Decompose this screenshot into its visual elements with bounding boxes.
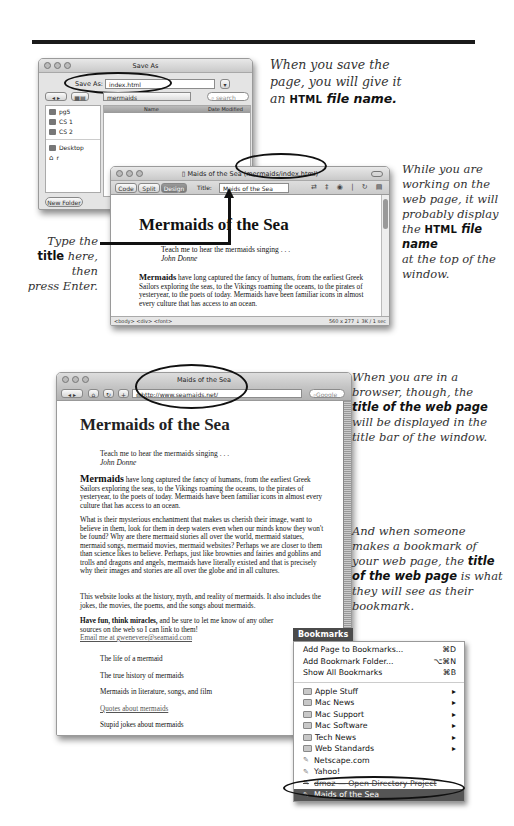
bookmark-icon: ✎ xyxy=(303,768,311,776)
folder-popup-label: mermaids xyxy=(107,94,137,101)
add-bookmark-button[interactable]: + xyxy=(118,389,129,398)
bookmarks-menu: Bookmarks Add Page to Bookmarks...⌘D Add… xyxy=(293,622,465,802)
folder-icon xyxy=(303,734,312,741)
bookmark-icon: ✎ xyxy=(303,756,311,764)
menu-item-add-page[interactable]: Add Page to Bookmarks...⌘D xyxy=(294,644,464,656)
caption-emph: HTML xyxy=(425,224,458,235)
quote-text: Teach me to hear the mermaids singing . … xyxy=(100,449,229,458)
dw-scrollbar[interactable] xyxy=(381,195,389,316)
minimize-button[interactable] xyxy=(54,62,61,69)
view-mode-button[interactable]: ▦▤ xyxy=(71,92,89,101)
tag-selector[interactable]: <body> <div> <font> xyxy=(114,317,172,325)
column-date-modified[interactable]: Date Modified xyxy=(208,106,243,112)
caption-emph: file name. xyxy=(322,91,397,106)
zoom-button[interactable] xyxy=(82,376,89,383)
sidebar-item[interactable]: Desktop xyxy=(46,143,100,152)
toolbar-toggle[interactable] xyxy=(371,171,383,177)
search-field[interactable]: ⌕ search xyxy=(207,92,249,101)
sidebar-item[interactable]: CS 2 xyxy=(46,127,100,136)
close-button[interactable] xyxy=(44,62,51,69)
caption-emph: title xyxy=(468,554,495,568)
new-folder-button[interactable]: New Folder xyxy=(45,197,83,207)
minimize-button[interactable] xyxy=(126,170,133,177)
dw-design-view[interactable]: Mermaids of the Sea Teach me to hear the… xyxy=(111,195,381,316)
caption-line: at the top of the xyxy=(402,252,514,267)
folder-popup[interactable]: mermaids xyxy=(103,92,191,101)
submenu-arrow-icon: ▸ xyxy=(452,687,456,696)
split-view-button[interactable]: Split xyxy=(138,183,160,193)
expand-dialog-button[interactable]: ▾ xyxy=(220,79,230,89)
menu-folder[interactable]: Mac News▸ xyxy=(294,697,464,709)
column-name[interactable]: Name xyxy=(144,106,159,112)
back-forward-button[interactable]: ◂ ▸ xyxy=(61,389,83,398)
sidebar-item[interactable]: CS 1 xyxy=(46,117,100,126)
document-icon: ▯ xyxy=(182,170,186,178)
dw-status-bar: <body> <div> <font> 560 x 277 ↓ 3K / 1 s… xyxy=(111,316,389,325)
zoom-button[interactable] xyxy=(64,62,71,69)
window-controls xyxy=(62,376,89,383)
caption-line: page, you will give it xyxy=(270,73,420,90)
reload-button[interactable]: ↻ xyxy=(103,389,114,398)
menu-folder[interactable]: Mac Software▸ xyxy=(294,720,464,732)
sidebar-label: r xyxy=(56,154,58,161)
menu-folder[interactable]: Web Standards▸ xyxy=(294,743,464,755)
sidebar-label: CS 1 xyxy=(59,118,73,125)
menu-bookmark[interactable]: ✎Netscape.com xyxy=(294,755,464,767)
caption-line: probably display xyxy=(402,207,514,222)
menu-folder[interactable]: Apple Stuff▸ xyxy=(294,686,464,698)
disk-icon xyxy=(49,129,56,135)
menu-item-add-folder[interactable]: Add Bookmark Folder...⌥⌘N xyxy=(294,656,464,668)
submenu-arrow-icon: ▸ xyxy=(452,710,456,719)
home-icon: ⌂ xyxy=(49,154,53,162)
minimize-button[interactable] xyxy=(72,376,79,383)
search-field[interactable]: ⌕Google xyxy=(309,389,345,398)
caption-bookmark: And when someone makes a bookmark of you… xyxy=(352,524,514,614)
caption-line: When you are in a xyxy=(352,370,514,385)
list-item: Mermaids in literature, songs, and film xyxy=(100,684,300,701)
caption-emph: of the web page xyxy=(352,569,457,583)
sidebar-item[interactable]: ⌂r xyxy=(46,153,100,162)
caption-line: bookmark. xyxy=(352,599,514,614)
scroll-thumb[interactable] xyxy=(383,199,388,229)
highlight-oval-browser-title xyxy=(135,364,248,409)
menu-label: Netscape.com xyxy=(314,756,370,765)
dw-toolbar: Code Split Design Title: Maids of the Se… xyxy=(111,181,389,195)
caption-text: your web page, the xyxy=(352,554,468,568)
quote: Teach me to hear the mermaids singing . … xyxy=(100,449,229,467)
quotes-link[interactable]: Quotes about mermaids xyxy=(100,701,300,718)
sidebar-item[interactable]: pg5 xyxy=(46,107,100,116)
bookmarks-menu-title[interactable]: Bookmarks xyxy=(293,628,353,641)
close-button[interactable] xyxy=(62,376,69,383)
close-button[interactable] xyxy=(116,170,123,177)
nav-buttons: ◂ ▸ ▦▤ xyxy=(45,92,89,101)
home-button[interactable]: ⌂ xyxy=(88,389,99,398)
list-item: The life of a mermaid xyxy=(100,651,300,668)
computer-icon xyxy=(49,109,56,115)
menu-divider xyxy=(294,682,464,683)
desktop-icon xyxy=(49,145,56,151)
dialog-title: Save As xyxy=(133,62,159,70)
menu-folder[interactable]: Tech News▸ xyxy=(294,732,464,744)
caption-line: browser, though, the xyxy=(352,385,514,400)
highlight-oval-path xyxy=(235,153,327,179)
back-forward-button[interactable]: ◂ ▸ xyxy=(45,92,67,101)
menu-shortcut: ⌥⌘N xyxy=(433,657,456,666)
menu-label: Tech News xyxy=(315,733,356,742)
sidebar-label: CS 2 xyxy=(59,128,73,135)
para-bold: Have fun, think miracles, xyxy=(80,617,158,625)
email-link[interactable]: Email me at gwenevere@seamaid.com xyxy=(80,634,290,643)
folder-icon xyxy=(303,688,312,695)
menu-label: Yahoo! xyxy=(314,767,340,776)
menu-label: Add Bookmark Folder... xyxy=(303,657,393,666)
window-size[interactable]: 560 x 277 ↓ 3K / 1 sec xyxy=(329,317,386,325)
submenu-arrow-icon: ▸ xyxy=(452,721,456,730)
design-view-button[interactable]: Design xyxy=(161,183,187,193)
para-bold: Mermaids xyxy=(80,473,124,484)
toolbar-icons[interactable]: ⇄ ‡ ◉ | ↻ ▤ xyxy=(311,183,385,191)
menu-item-show-all[interactable]: Show All Bookmarks⌘B xyxy=(294,667,464,679)
title-label: Title: xyxy=(197,184,212,191)
code-view-button[interactable]: Code xyxy=(115,183,137,193)
zoom-button[interactable] xyxy=(136,170,143,177)
menu-folder[interactable]: Mac Support▸ xyxy=(294,709,464,721)
window-controls xyxy=(116,170,143,177)
